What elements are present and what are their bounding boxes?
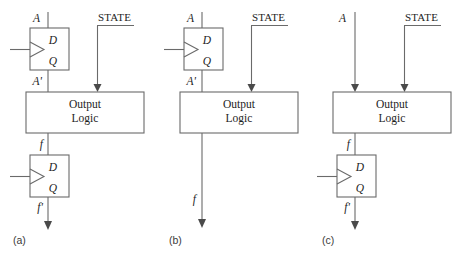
panel-c-bottom-ff-d-label: D: [355, 161, 365, 173]
panel-a-output-arrowhead: [44, 221, 52, 230]
panel-a-caption: (a): [13, 234, 26, 246]
panel-b-output-logic-line2: Logic: [226, 112, 253, 125]
panel-b-top-ff-q-label: Q: [203, 55, 212, 67]
panel-a-bottom-ff-d-label: D: [48, 161, 58, 173]
panel-a-f-label: f: [40, 138, 45, 151]
panel-c-bottom-ff-q-label: Q: [356, 182, 365, 194]
panel-b-top-ff-d-label: D: [202, 34, 212, 46]
panel-b-output-logic-line1: Output: [223, 98, 256, 111]
circuit-figure: A D Q A' STATE Output Logic f D Q f': [0, 0, 463, 259]
panel-c-caption: (c): [322, 234, 334, 246]
panel-a-aprime-label: A': [32, 75, 43, 87]
panel-a-top-ff-q-label: Q: [49, 55, 58, 67]
panel-c-output-logic-line1: Output: [376, 98, 409, 111]
panel-c-state-label: STATE: [405, 11, 438, 23]
panel-a: A D Q A' STATE Output Logic f D Q f': [10, 11, 144, 246]
panel-c-input-arrowhead: [351, 84, 359, 92]
panel-b-aprime-label: A': [186, 75, 197, 87]
panel-b-f-label: f: [193, 193, 198, 206]
panel-b-state-arrowhead: [248, 84, 256, 92]
panel-a-input-label: A: [32, 12, 41, 24]
panel-a-state-label: STATE: [98, 11, 131, 23]
panel-a-output-logic-line2: Logic: [72, 112, 99, 125]
panel-c-state-arrowhead: [401, 84, 409, 92]
panel-c-f-label: f: [347, 138, 352, 151]
panel-c-input-label: A: [338, 12, 347, 24]
panel-b: A D Q A' STATE Output Logic f (b): [164, 11, 298, 246]
panel-a-state-arrowhead: [94, 84, 102, 92]
panel-c: A STATE Output Logic f D Q f' (c): [317, 11, 451, 246]
panel-a-output-logic-line1: Output: [69, 98, 102, 111]
panel-b-input-label: A: [186, 12, 195, 24]
panel-a-bottom-ff-q-label: Q: [49, 182, 58, 194]
panel-b-output-arrowhead: [198, 219, 206, 228]
panel-c-output-arrowhead: [351, 221, 359, 230]
panel-a-fprime-label: f': [37, 201, 43, 214]
panel-c-fprime-label: f': [344, 201, 350, 214]
panel-b-state-label: STATE: [252, 11, 285, 23]
panel-a-top-ff-d-label: D: [48, 34, 58, 46]
panel-c-output-logic-line2: Logic: [379, 112, 406, 125]
panel-b-caption: (b): [169, 234, 182, 246]
